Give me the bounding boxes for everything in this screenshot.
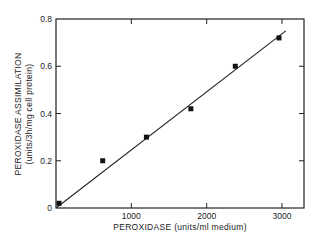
chart: 10002000300000.20.40.60.8 PEROXIDASE (un… [0, 0, 320, 242]
regression-line [56, 31, 286, 208]
x-axis-label: PEROXIDASE (units/ml medium) [113, 222, 247, 232]
x-tick-label: 2000 [197, 211, 216, 221]
x-tick-label: 1000 [122, 211, 141, 221]
y-tick-label: 0 [47, 203, 52, 213]
data-point [100, 158, 105, 163]
data-point [188, 106, 193, 111]
y-tick-label: 0.4 [40, 109, 52, 119]
y-axis-label-line1: PEROXIDASE ASSIMILATION [13, 53, 23, 176]
y-axis-label-line2: (units/3h/mg cell protein) [24, 64, 34, 165]
y-tick-label: 0.8 [40, 14, 52, 24]
data-point [276, 35, 281, 40]
fit-line [56, 31, 286, 208]
y-tick-label: 0.6 [40, 61, 52, 71]
data-point [233, 64, 238, 69]
data-point [144, 135, 149, 140]
y-tick-label: 0.2 [40, 156, 52, 166]
data-point [57, 201, 62, 206]
x-tick-label: 3000 [273, 211, 292, 221]
